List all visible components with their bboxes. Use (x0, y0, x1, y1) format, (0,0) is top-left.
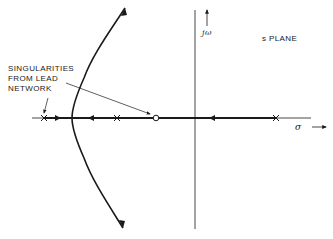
annotation-pointer-to-pole (44, 98, 48, 113)
real-axis-label: σ (295, 122, 302, 132)
imaginary-axis-label: jω (202, 28, 212, 38)
locus-direction-arrow-icon (55, 115, 61, 121)
locus-direction-arrow-icon (88, 115, 94, 121)
singularities-annotation: SINGULARITIES FROM LEAD NETWORK (8, 64, 74, 94)
annotation-pointer-to-zero (66, 83, 150, 114)
zero-icon (153, 115, 159, 121)
plane-label: s PLANE (262, 34, 297, 44)
locus-direction-arrow-icon (209, 115, 215, 121)
